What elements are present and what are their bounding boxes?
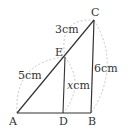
label-ae-length: 5cm <box>18 69 42 82</box>
label-point-c: C <box>91 6 99 19</box>
geometry-diagram: A D B C E 5cm 3cm 6cm xcm <box>0 0 135 134</box>
label-point-d: D <box>59 115 68 128</box>
unit-cm: cm <box>73 79 90 92</box>
triangle-figure: A D B C E 5cm 3cm 6cm xcm <box>0 0 135 134</box>
label-point-a: A <box>8 115 18 128</box>
label-bc-length: 6cm <box>94 62 118 75</box>
label-de-length: xcm <box>67 79 90 92</box>
label-ec-length: 3cm <box>55 23 79 36</box>
segment-de <box>63 57 65 113</box>
label-point-e: E <box>55 46 63 59</box>
label-point-b: B <box>88 115 96 128</box>
